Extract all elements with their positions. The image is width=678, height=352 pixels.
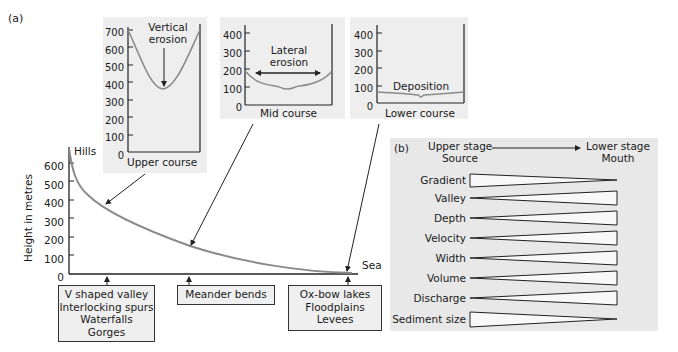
sea-label: Sea (362, 259, 382, 271)
row-label-depth: Depth (392, 212, 466, 224)
lower-stage-label: Lower stageMouth (582, 140, 654, 164)
lower-course-caption: Lower course (385, 107, 455, 119)
vertical-erosion-label: Verticalerosion (138, 21, 198, 45)
row-label-volume: Volume (392, 272, 466, 284)
y-axis-title: Height in metres (22, 168, 34, 268)
mid-course-yticks: 400 300 200 100 0 (222, 27, 242, 117)
row-label-sediment-size: Sediment size (388, 313, 466, 325)
upper-course-caption: Upper course (127, 156, 197, 168)
row-label-gradient: Gradient (392, 174, 466, 186)
row-label-valley: Valley (392, 192, 466, 204)
lower-course-yticks: 400 300 200 100 0 (353, 27, 373, 116)
lower-features-box: Ox-bow lakes Floodplains Levees (288, 285, 382, 331)
lateral-erosion-label: Lateralerosion (258, 44, 320, 68)
upper-course-yticks: 700 600 500 400 300 200 100 0 (104, 24, 124, 165)
hills-label: Hills (74, 145, 96, 157)
upper-features-box: V shaped valley Interlocking spurs Water… (58, 285, 155, 342)
row-label-width: Width (392, 252, 466, 264)
main-yticks: 600 500 400 300 200 100 0 (34, 157, 64, 287)
part-b-label: (b) (394, 142, 409, 154)
row-label-discharge: Discharge (392, 292, 466, 304)
mid-course-caption: Mid course (260, 107, 317, 119)
mid-features-box: Meander bends (177, 285, 275, 305)
deposition-label: Deposition (393, 80, 449, 92)
upper-stage-label: Upper stageSource (428, 140, 492, 164)
row-label-velocity: Velocity (392, 232, 466, 244)
